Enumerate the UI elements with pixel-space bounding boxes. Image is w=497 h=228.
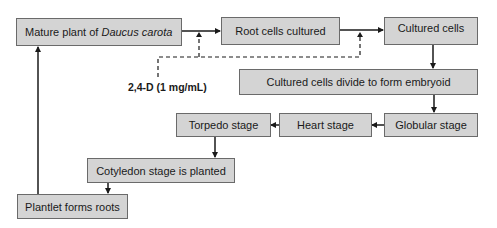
node-heart-stage: Heart stage bbox=[279, 113, 372, 137]
node-globular-stage: Globular stage bbox=[384, 113, 478, 137]
node-embryoid-text: Cultured cells divide to form embryoid bbox=[266, 76, 450, 88]
node-cotyledon-stage: Cotyledon stage is planted bbox=[87, 158, 235, 183]
node-cotyledon-stage-text: Cotyledon stage is planted bbox=[96, 165, 226, 177]
node-cultured-cells-text: Cultured cells bbox=[398, 22, 465, 34]
node-plantlet-forms-roots-text: Plantlet forms roots bbox=[25, 201, 120, 213]
annotation-2-4-d: 2,4-D (1 mg/mL) bbox=[128, 81, 207, 93]
node-torpedo-stage: Torpedo stage bbox=[176, 113, 271, 137]
node-cultured-cells: Cultured cells bbox=[384, 17, 478, 45]
dashed-arrowhead-left bbox=[196, 32, 202, 37]
node-root-cells-cultured: Root cells cultured bbox=[221, 17, 340, 45]
node-mature-plant: Mature plant of Daucus carota bbox=[16, 18, 182, 46]
dashed-arrowhead-right bbox=[357, 32, 363, 37]
node-mature-plant-species: Daucus carota bbox=[101, 26, 172, 38]
node-torpedo-stage-text: Torpedo stage bbox=[189, 119, 259, 131]
node-mature-plant-text: Mature plant of bbox=[25, 26, 101, 38]
node-root-cells-cultured-text: Root cells cultured bbox=[235, 25, 326, 37]
node-globular-stage-text: Globular stage bbox=[395, 119, 467, 131]
node-embryoid: Cultured cells divide to form embryoid bbox=[239, 69, 478, 95]
node-heart-stage-text: Heart stage bbox=[297, 119, 354, 131]
node-plantlet-forms-roots: Plantlet forms roots bbox=[17, 194, 128, 219]
